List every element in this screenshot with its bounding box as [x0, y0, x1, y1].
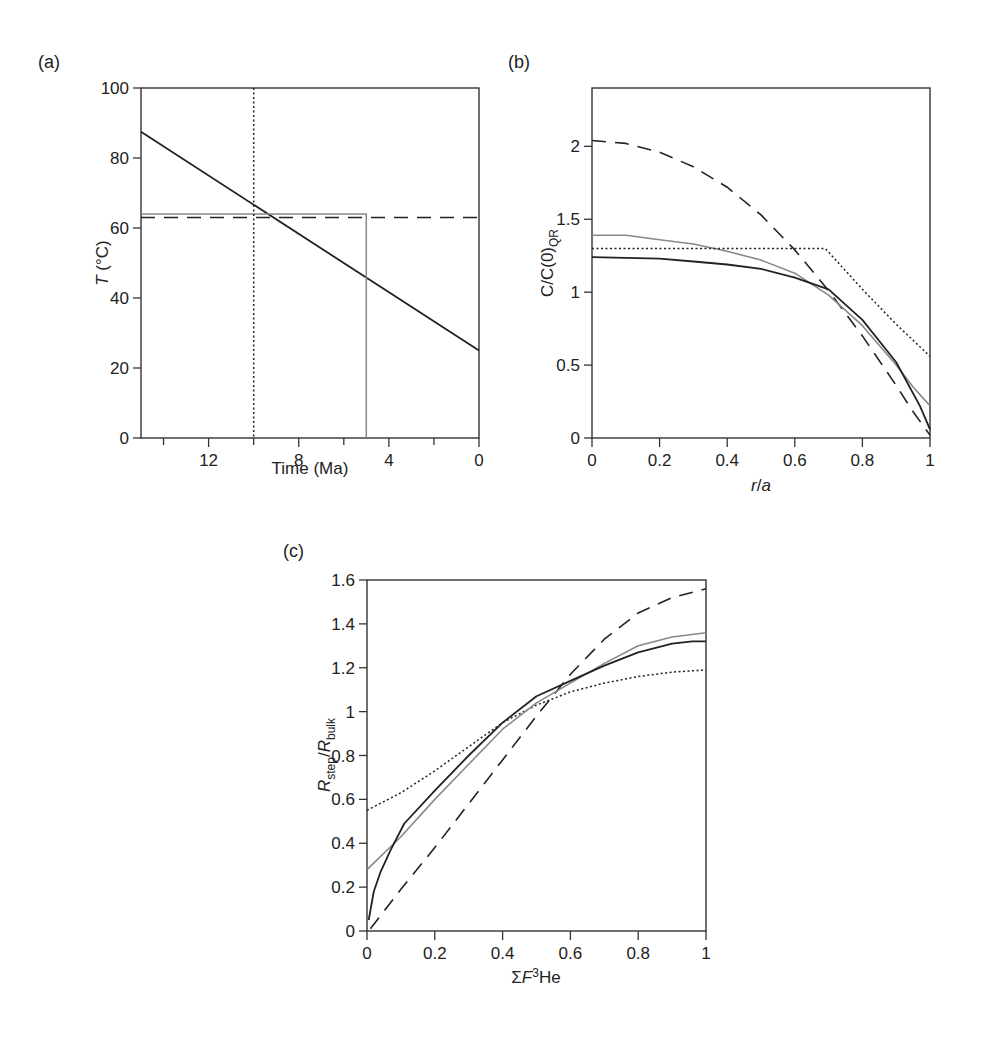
- panel-b-concentration-profile: (b) 00.511.5200.20.40.60.81 r/a C/C(0)QR: [508, 52, 935, 495]
- y-tick-label: 0.5: [556, 356, 580, 375]
- panel-c-ratio-evolution: (c) 00.20.40.60.811.21.41.600.20.40.60.8…: [283, 541, 711, 987]
- panel-c-label: (c): [283, 541, 304, 561]
- x-tick-label: 4: [384, 451, 393, 470]
- series-gray: [367, 633, 706, 870]
- y-tick-label: 0.2: [331, 878, 355, 897]
- y-tick-label: 0.6: [331, 790, 355, 809]
- panel-c-plot-area: 00.20.40.60.811.21.41.600.20.40.60.81: [331, 571, 710, 963]
- y-tick-label: 100: [101, 79, 129, 98]
- x-tick-label: 0.8: [851, 451, 875, 470]
- panel-b-plot-area: 00.511.5200.20.40.60.81: [556, 88, 934, 470]
- panel-a-label: (a): [38, 52, 60, 72]
- panel-a-plot-area: 02040608010012840: [101, 79, 484, 470]
- y-tick-label: 1.4: [331, 615, 355, 634]
- panel-b-y-axis-label: C/C(0)QR: [538, 229, 561, 297]
- x-tick-label: 0.4: [715, 451, 739, 470]
- panel-b-x-axis-label: r/a: [751, 476, 771, 495]
- y-tick-label: 0.4: [331, 834, 355, 853]
- y-tick-label: 20: [110, 359, 129, 378]
- y-tick-label: 0: [571, 429, 580, 448]
- y-tick-label: 0: [346, 922, 355, 941]
- x-tick-label: 0: [362, 944, 371, 963]
- panel-a-temperature-time: (a) 02040608010012840 Time (Ma) T (°C): [38, 52, 484, 478]
- panel-b-label: (b): [508, 52, 530, 72]
- series-gray: [592, 235, 930, 406]
- y-tick-label: 60: [110, 219, 129, 238]
- y-tick-label: 2: [571, 137, 580, 156]
- x-tick-label: 0.6: [783, 451, 807, 470]
- x-tick-label: 0: [587, 451, 596, 470]
- x-tick-label: 0: [474, 451, 483, 470]
- x-tick-label: 0.8: [626, 944, 650, 963]
- y-tick-label: 1: [571, 283, 580, 302]
- x-tick-label: 0.6: [559, 944, 583, 963]
- series-linear-cooling-path: [141, 132, 479, 351]
- x-tick-label: 0.2: [648, 451, 672, 470]
- series-solid-black: [592, 257, 930, 429]
- series-dotted: [367, 670, 706, 810]
- plot-frame: [592, 88, 930, 438]
- panel-a-y-axis-label: T (°C): [93, 240, 112, 286]
- y-tick-label: 40: [110, 289, 129, 308]
- x-tick-label: 0.4: [491, 944, 515, 963]
- plot-frame: [141, 88, 479, 438]
- plot-frame: [367, 580, 706, 931]
- panel-a-x-axis-label: Time (Ma): [272, 459, 349, 478]
- x-tick-label: 12: [199, 451, 218, 470]
- series-dashed: [370, 589, 706, 929]
- x-tick-label: 0.2: [423, 944, 447, 963]
- figure: (a) 02040608010012840 Time (Ma) T (°C) (…: [0, 0, 987, 1037]
- y-tick-label: 1.2: [331, 659, 355, 678]
- y-tick-label: 1: [346, 703, 355, 722]
- x-tick-label: 1: [701, 944, 710, 963]
- y-tick-label: 0: [120, 429, 129, 448]
- y-tick-label: 80: [110, 149, 129, 168]
- panel-c-x-axis-label: ΣF3He: [511, 966, 560, 987]
- series-dashed: [592, 141, 930, 436]
- y-tick-label: 1.5: [556, 210, 580, 229]
- x-tick-label: 1: [925, 451, 934, 470]
- y-tick-label: 1.6: [331, 571, 355, 590]
